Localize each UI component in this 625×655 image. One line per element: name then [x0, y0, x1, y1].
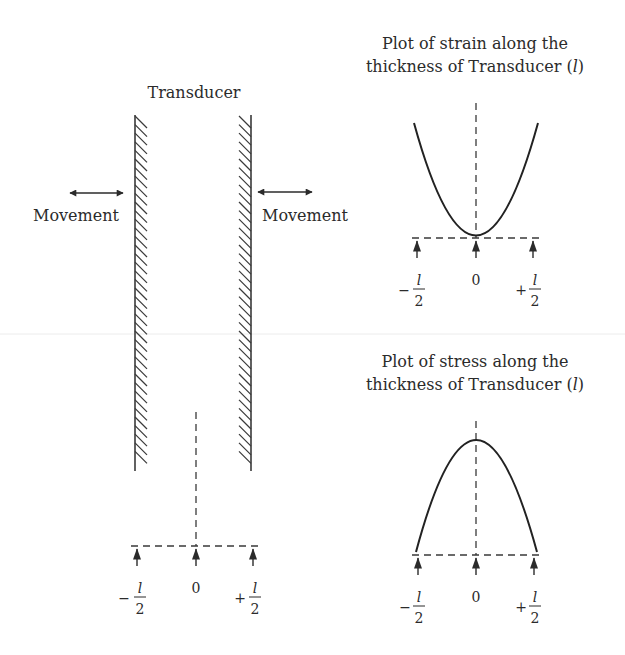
stress-tick-label-minus-half: − l 2 [399, 589, 425, 626]
transducer-diagram: Transducer Movement Movement − l 2 0 [0, 0, 625, 655]
svg-text:2: 2 [415, 610, 424, 626]
svg-text:l: l [138, 580, 142, 596]
svg-text:2: 2 [251, 601, 260, 617]
strain-tick-label-minus-half: − l 2 [398, 272, 425, 309]
stress-tick-label-plus-half: + l 2 [515, 589, 541, 626]
svg-text:2: 2 [531, 293, 540, 309]
stress-tick-label-zero: 0 [472, 589, 481, 605]
strain-plot-title-line1: Plot of strain along the [382, 34, 568, 53]
right-movement-label: Movement [262, 206, 348, 225]
stress-plot-title-line2: thickness of Transducer (l) [366, 375, 584, 394]
svg-text:l: l [253, 580, 257, 596]
stress-plot-title-line1: Plot of stress along the [381, 352, 568, 371]
transducer-section: Transducer Movement Movement − l 2 0 [33, 83, 348, 617]
tick-label-minus-half: − l 2 [118, 580, 146, 617]
left-wall [135, 115, 147, 471]
svg-text:2: 2 [415, 293, 424, 309]
left-wall-hatching [135, 116, 147, 463]
tick-label-zero: 0 [192, 580, 201, 596]
strain-plot-title-line2: thickness of Transducer (l) [366, 57, 584, 76]
svg-text:+: + [515, 282, 527, 298]
svg-text:−: − [398, 282, 410, 298]
svg-text:−: − [399, 599, 411, 615]
left-movement-label: Movement [33, 206, 119, 225]
right-wall-hatching [239, 116, 251, 463]
svg-text:2: 2 [136, 601, 145, 617]
svg-text:2: 2 [531, 610, 540, 626]
svg-text:+: + [515, 599, 527, 615]
svg-text:+: + [234, 590, 246, 606]
svg-text:l: l [533, 272, 537, 288]
svg-text:l: l [417, 589, 421, 605]
right-wall [239, 115, 251, 471]
strain-tick-label-plus-half: + l 2 [515, 272, 541, 309]
stress-plot: Plot of stress along the thickness of Tr… [366, 352, 584, 626]
transducer-title: Transducer [148, 83, 241, 102]
svg-text:l: l [417, 272, 421, 288]
strain-plot: Plot of strain along the thickness of Tr… [366, 34, 584, 309]
strain-tick-label-zero: 0 [472, 272, 481, 288]
svg-text:l: l [533, 589, 537, 605]
tick-label-plus-half: + l 2 [234, 580, 261, 617]
svg-text:−: − [118, 590, 130, 606]
